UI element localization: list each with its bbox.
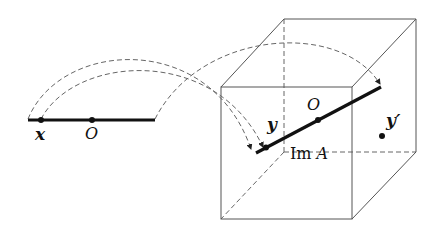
label-im: Im xyxy=(290,144,317,163)
origin-domain-dot xyxy=(89,117,95,123)
arc-left-end xyxy=(28,60,251,149)
origin-image-dot xyxy=(315,117,321,123)
label-origin-image: O xyxy=(307,97,320,113)
label-y-prime: y′ xyxy=(386,112,400,129)
point-y-dot xyxy=(263,145,269,151)
diagram-canvas: x O y O y′ Im A xyxy=(0,0,434,233)
label-A: A xyxy=(317,144,329,163)
label-image-of-A: Im A xyxy=(290,146,328,162)
label-y: y xyxy=(267,116,277,133)
arc-right-end xyxy=(155,43,380,119)
label-origin-domain: O xyxy=(85,126,98,142)
mapping-arcs xyxy=(28,43,380,149)
label-x: x xyxy=(35,126,45,143)
diagram-svg xyxy=(0,0,434,233)
point-y-prime-dot xyxy=(379,133,385,139)
point-x-dot xyxy=(38,117,44,123)
